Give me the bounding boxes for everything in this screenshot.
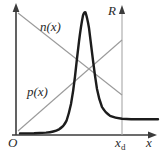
r-axis-label: R	[108, 4, 116, 17]
r-axis	[119, 5, 125, 135]
y-axis	[13, 3, 20, 135]
y-axis-arrowhead	[13, 3, 20, 12]
r-axis-arrowhead	[119, 5, 125, 14]
n-curve-label: n(x)	[40, 20, 61, 33]
x-d-base: x	[115, 135, 121, 150]
x-axis-label: x	[146, 136, 152, 149]
x-d-tick-label: xd	[115, 136, 125, 152]
origin-label: O	[8, 136, 17, 149]
figure-container: n(x) p(x) R O x xd	[0, 0, 161, 157]
p-curve-label: p(x)	[27, 85, 48, 98]
x-d-subscript: d	[121, 142, 126, 152]
figure-canvas	[0, 0, 161, 157]
